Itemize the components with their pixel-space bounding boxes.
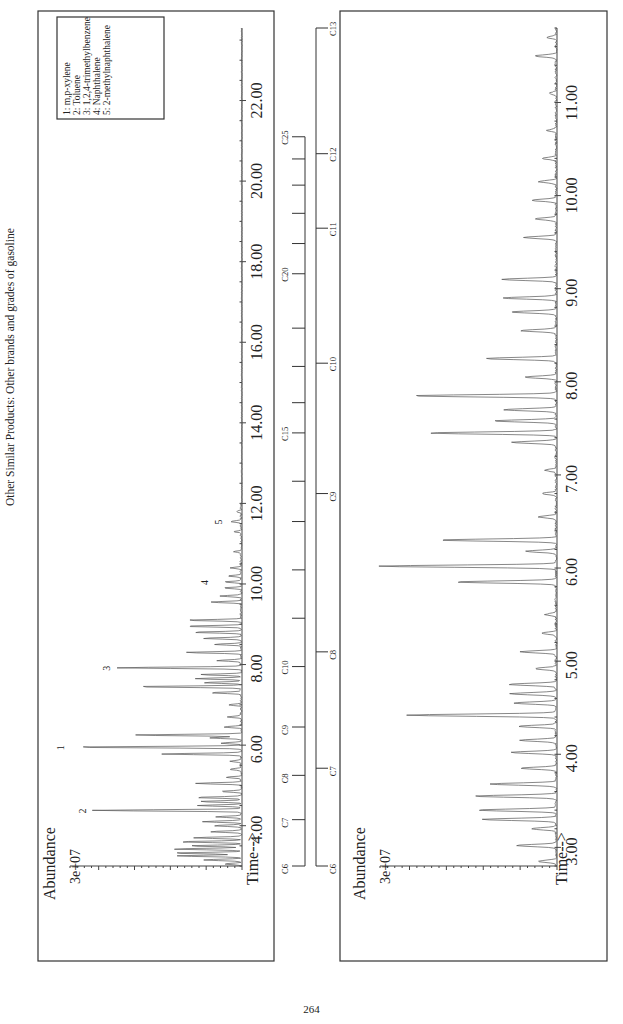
- carbon-ladder-short-range: C6C7C8C9C10C11C12C13: [316, 22, 338, 874]
- ladder-label: C15: [280, 427, 290, 441]
- ladder-label: C10: [328, 357, 338, 371]
- time-tick-label: 18.00: [248, 244, 265, 280]
- time-tick-label: 12.00: [248, 485, 265, 521]
- chromatogram-trace: [379, 28, 557, 866]
- top-legend: 1: m,p-xylene2: Toluene3: 1,2,4-trimethy…: [62, 17, 112, 115]
- bottom-chromatogram-plot: 3.004.005.006.007.008.009.0010.0011.00: [379, 28, 580, 870]
- page-title: Other Similar Products: Other brands and…: [4, 228, 17, 506]
- time-tick-label: 4.00: [563, 744, 580, 772]
- peak-label: 1: [55, 745, 66, 750]
- ladder-label: C9: [328, 492, 338, 502]
- ladder-label: C6: [280, 864, 290, 874]
- bottom-ylabel: Abundance: [351, 827, 368, 900]
- ladder-label: C9: [280, 725, 290, 735]
- legend-entry: 4: Naphthalene: [92, 57, 102, 115]
- time-tick-label: 10.00: [248, 566, 265, 602]
- time-tick-label: 5.00: [563, 651, 580, 679]
- ladder-label: C11: [328, 222, 338, 236]
- time-tick-label: 8.00: [248, 655, 265, 683]
- peak-label: 5: [213, 520, 224, 525]
- ladder-label: C8: [280, 773, 290, 783]
- ladder-label: C10: [280, 660, 290, 674]
- top-xlabel: Time-->: [244, 832, 261, 885]
- peak-label: 3: [101, 666, 112, 671]
- peak-label: 2: [77, 808, 88, 813]
- legend-entry: 1: m,p-xylene: [62, 62, 72, 115]
- legend-entry: 3: 1,2,4-trimethylbenzene: [82, 17, 92, 115]
- time-tick-label: 9.00: [563, 279, 580, 307]
- time-tick-label: 7.00: [563, 465, 580, 493]
- ladder-label: C8: [328, 650, 338, 660]
- ladder-label: C20: [280, 268, 290, 282]
- ladder-label: C6: [328, 864, 338, 874]
- time-tick-label: 6.00: [563, 558, 580, 586]
- time-tick-label: 22.00: [248, 83, 265, 119]
- top-chromatogram-plot: 4.006.008.0010.0012.0014.0016.0018.0020.…: [55, 28, 265, 870]
- top-ytick-label: 3e+07: [68, 849, 83, 884]
- legend-entry: 5: 2-methylnaphthalene: [102, 25, 112, 115]
- carbon-ladder-long-range: C6C7C8C9C10C15C20C25: [280, 131, 305, 874]
- ladder-label: C7: [280, 818, 290, 828]
- ladder-label: C7: [328, 766, 338, 776]
- peak-label: 4: [199, 580, 210, 585]
- ladder-label: C13: [328, 22, 338, 36]
- time-tick-label: 20.00: [248, 163, 265, 199]
- bottom-xlabel: Time-->: [553, 832, 570, 885]
- chromatogram-page: Other Similar Products: Other brands and…: [0, 0, 623, 1024]
- time-tick-label: 11.00: [563, 85, 580, 120]
- time-tick-label: 6.00: [248, 735, 265, 763]
- chromatogram-trace: [83, 28, 242, 866]
- time-tick-label: 10.00: [563, 178, 580, 214]
- time-tick-label: 8.00: [563, 372, 580, 400]
- ladder-label: C25: [280, 131, 290, 145]
- ladder-label: C12: [328, 148, 338, 162]
- bottom-ytick-label: 3e+07: [378, 849, 393, 884]
- time-tick-label: 14.00: [248, 405, 265, 441]
- page-number: 264: [0, 1003, 623, 1015]
- legend-entry: 2: Toluene: [72, 75, 82, 115]
- top-ylabel: Abundance: [41, 827, 58, 900]
- time-tick-label: 16.00: [248, 324, 265, 360]
